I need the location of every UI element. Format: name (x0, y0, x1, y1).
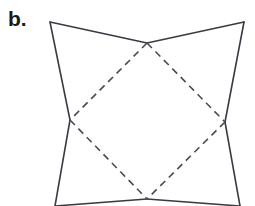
dashed-diamond-group (70, 43, 225, 199)
solid-outline-group (50, 22, 244, 206)
geometric-diagram (0, 0, 255, 206)
edge-top-center-to-top-right (147, 22, 244, 43)
edge-left-upper-side (50, 22, 70, 120)
edge-right-lower-side (225, 122, 240, 206)
edge-bottom-center-to-bottom-right (147, 199, 240, 206)
edge-bottom-left-to-bottom-center (55, 199, 147, 206)
edge-diamond-top-right (147, 43, 225, 122)
edge-diamond-bottom-right (147, 122, 225, 199)
edge-right-upper-side (225, 22, 244, 122)
edge-left-lower-side (55, 120, 70, 206)
edge-diamond-top-left (70, 43, 147, 120)
figure-container: b. (0, 0, 255, 206)
edge-top-left-to-top-center (50, 22, 147, 43)
edge-diamond-bottom-left (70, 120, 147, 199)
